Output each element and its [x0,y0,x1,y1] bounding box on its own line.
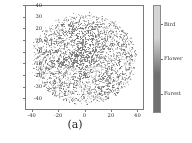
scatter-points-canvas [26,6,143,109]
colorbar-tick-mark-bird [161,24,163,25]
xtick-label-40: 40 [127,113,147,118]
ytick-label-40: 40 [22,3,42,8]
ytick-label-neg20: -20 [22,73,42,78]
xtick-label-neg40: -40 [22,113,42,118]
scatter-plot-area [25,5,144,110]
ytick-label-0: 0 [22,49,42,54]
ytick-label-30: 30 [22,14,42,19]
colorbar-legend [153,5,161,113]
colorbar-gradient [153,5,161,113]
figure-panel: 40 30 20 10 0 -10 -20 -30 -40 -40 -20 0 … [0,0,192,143]
figure-caption: (a) [0,119,150,130]
colorbar-label-bird: Bird [164,22,175,27]
colorbar-label-forest: Forest [164,91,181,96]
ytick-label-neg10: -10 [22,61,42,66]
xtick-label-neg20: -20 [48,113,68,118]
ytick-label-neg40: -40 [22,96,42,101]
colorbar-label-flower: Flower [164,56,182,61]
ytick-label-20: 20 [22,26,42,31]
colorbar-tick-mark-forest [161,94,163,95]
xtick-label-20: 20 [101,113,121,118]
colorbar-tick-mark-flower [161,59,163,60]
ytick-label-neg30: -30 [22,84,42,89]
ytick-label-10: 10 [22,38,42,43]
